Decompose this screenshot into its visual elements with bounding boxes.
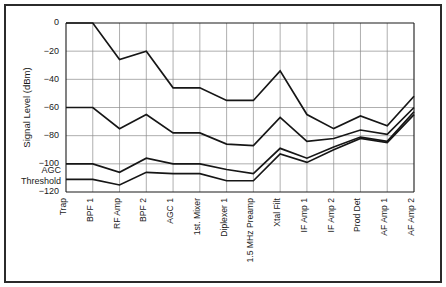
y-tick-label: −120 bbox=[39, 186, 59, 196]
series-lines bbox=[66, 23, 414, 185]
y-axis-title: Signal Level (dBm) bbox=[21, 67, 32, 147]
series-line bbox=[66, 115, 414, 185]
x-tick-label: 1st. Mixer bbox=[192, 198, 202, 235]
signal-level-chart: 0−20−40−60−80−100−120 TrapBPF 1RF AmpBPF… bbox=[0, 0, 446, 287]
series-line bbox=[66, 108, 414, 146]
chart-annotations: AGCThreshold bbox=[21, 165, 62, 186]
x-tick-label: Trap bbox=[58, 198, 68, 216]
series-line bbox=[66, 112, 414, 174]
x-tick-label: Xtal Filt bbox=[272, 197, 282, 226]
x-tick-label: RF Amp bbox=[112, 198, 122, 229]
x-tick-label: 1.5 MHz Preamp bbox=[245, 198, 255, 263]
x-tick-label: Diplexer 1 bbox=[219, 198, 229, 237]
y-tick-label: −40 bbox=[44, 74, 59, 84]
agc-threshold-label-line2: Threshold bbox=[21, 176, 61, 186]
x-tick-label: AGC 1 bbox=[165, 198, 175, 224]
y-tick-label: 0 bbox=[54, 17, 59, 27]
x-tick-label: IF Amp 2 bbox=[326, 198, 336, 233]
agc-threshold-label-line1: AGC bbox=[41, 165, 61, 175]
series-line bbox=[66, 23, 414, 129]
x-tick-label: BPF 1 bbox=[85, 198, 95, 222]
x-tick-label: BPF 2 bbox=[138, 198, 148, 222]
gridlines bbox=[66, 23, 414, 192]
x-tick-label: AF Amp 1 bbox=[379, 198, 389, 236]
x-tick-label: IF Amp 1 bbox=[299, 198, 309, 233]
x-tick-label: Prod Det bbox=[352, 197, 362, 232]
x-tick-label: AF Amp 2 bbox=[406, 198, 416, 236]
x-tick-labels: TrapBPF 1RF AmpBPF 2AGC 11st. MixerDiple… bbox=[58, 197, 416, 262]
y-tick-label: −80 bbox=[44, 130, 59, 140]
y-tick-label: −60 bbox=[44, 102, 59, 112]
figure: 0−20−40−60−80−100−120 TrapBPF 1RF AmpBPF… bbox=[0, 0, 446, 287]
plot-wrapper: 0−20−40−60−80−100−120 TrapBPF 1RF AmpBPF… bbox=[0, 0, 446, 287]
y-tick-label: −20 bbox=[44, 46, 59, 56]
